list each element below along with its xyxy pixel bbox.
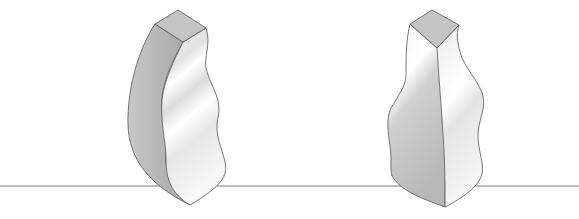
scene-canvas (0, 0, 579, 219)
left-wavy-solid (128, 10, 226, 205)
right-wavy-solid (388, 10, 484, 207)
